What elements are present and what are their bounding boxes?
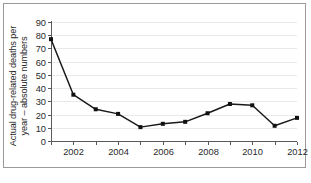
x-tick-label: 2010 bbox=[242, 147, 263, 157]
x-tick-label: 2008 bbox=[198, 147, 219, 157]
y-tick-label: 80 bbox=[36, 31, 46, 41]
y-tick-label: 0 bbox=[41, 137, 46, 147]
x-tick-label: 2006 bbox=[153, 147, 174, 157]
chart-figure: 9080706050403020100 20022004200620082010… bbox=[0, 0, 311, 183]
y-tick-label: 10 bbox=[36, 124, 46, 134]
data-point-marker-2004 bbox=[116, 112, 120, 116]
series-line bbox=[51, 39, 297, 127]
data-point-marker-2011 bbox=[273, 124, 277, 128]
data-point-marker-2010 bbox=[250, 103, 254, 107]
data-point-marker-2002 bbox=[71, 93, 75, 97]
y-tick-label: 20 bbox=[36, 111, 46, 121]
y-axis-title-line2: year – absolute numbers bbox=[19, 36, 29, 135]
y-tick-label: 70 bbox=[36, 44, 46, 54]
data-point-marker-2007 bbox=[183, 120, 187, 124]
y-tick-label: 60 bbox=[36, 58, 46, 68]
data-point-marker-2003 bbox=[94, 107, 98, 111]
line-chart: 9080706050403020100 20022004200620082010… bbox=[0, 0, 311, 183]
data-point-marker-2009 bbox=[228, 102, 232, 106]
y-axis-title-line1: Actual drug-related deaths per bbox=[8, 26, 18, 147]
x-tick-label: 2002 bbox=[63, 147, 84, 157]
x-tick-label: 2012 bbox=[287, 147, 308, 157]
data-point-marker-2005 bbox=[138, 125, 142, 129]
y-tick-label: 40 bbox=[36, 84, 46, 94]
data-point-marker-2008 bbox=[206, 111, 210, 115]
y-axis-title: Actual drug-related deaths per year – ab… bbox=[8, 26, 29, 147]
data-point-marker-2006 bbox=[161, 122, 165, 126]
y-tick-label: 30 bbox=[36, 97, 46, 107]
data-point-marker-2012 bbox=[295, 116, 299, 120]
y-tick-label: 50 bbox=[36, 71, 46, 81]
x-axis-tick-labels: 200220042006200820102012 bbox=[52, 142, 308, 158]
data-point-marker-2001 bbox=[49, 37, 53, 41]
x-tick-label: 2004 bbox=[108, 147, 129, 157]
y-tick-label: 90 bbox=[36, 18, 46, 28]
